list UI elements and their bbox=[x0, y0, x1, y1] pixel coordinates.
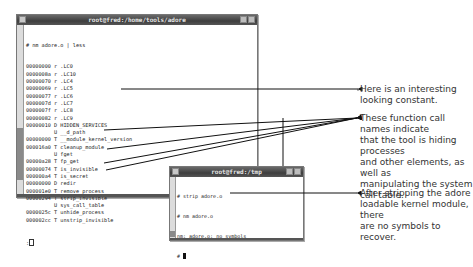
note-interesting-constant: Here is an interesting looking constant. bbox=[360, 84, 457, 106]
arrow-is-invisible bbox=[104, 118, 357, 130]
note-no-symbols: After stripping the adore loadable kerne… bbox=[360, 188, 473, 243]
arrow-sys-call-table bbox=[104, 118, 357, 163]
